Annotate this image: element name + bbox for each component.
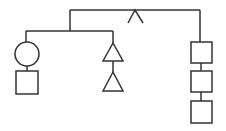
circle-node [15,42,39,66]
triangle-node [103,72,123,91]
left-branch [15,31,39,94]
square-node [191,71,212,92]
right-branch [191,10,212,123]
caret-marker-icon [128,10,143,23]
square-node [191,101,212,123]
square-node [191,42,212,63]
triangle-node [103,43,123,61]
square-node [16,71,38,94]
middle-branch [103,31,123,91]
tree-diagram [0,0,226,131]
